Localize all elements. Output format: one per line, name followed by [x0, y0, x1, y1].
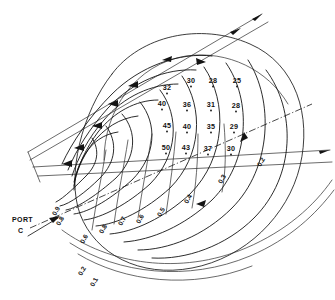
- stream-line-e: [92, 150, 106, 230]
- contour-label: 0.7: [117, 215, 128, 227]
- flow-arrowhead-8: [240, 132, 248, 142]
- contour-label: 0.1: [89, 276, 100, 288]
- grid-value-tick: [185, 153, 187, 155]
- grid-value-tick: [233, 132, 235, 134]
- port-label-line1: PORT: [12, 216, 33, 223]
- grid-value: 29: [230, 122, 239, 131]
- outer-envelope-group: [62, 34, 334, 281]
- grid-value: 50: [162, 143, 171, 152]
- stream-line-c: [138, 134, 152, 218]
- flow-line-3: [72, 84, 178, 176]
- grid-value: 32: [163, 83, 172, 92]
- diagram-canvas: 32 30 28 25 40 36 31 28 45 40 35 29: [0, 0, 335, 300]
- envelope-arc-secondary: [104, 55, 288, 160]
- grid-value-tick: [207, 154, 209, 156]
- grid-value: 43: [182, 143, 191, 152]
- port-label-group: PORT C: [12, 216, 33, 234]
- stream-line-a: [192, 134, 198, 208]
- grid-value: 35: [207, 122, 216, 131]
- grid-value-tick: [190, 86, 192, 88]
- ray-line-upper-1: [28, 14, 262, 152]
- grid-value-tick: [230, 154, 232, 156]
- contour-label: 0.2: [77, 265, 88, 277]
- grid-value-tick: [161, 109, 163, 111]
- grid-value: 28: [232, 101, 241, 110]
- lower-band-line-outer: [62, 180, 332, 264]
- meridian-arc-0-1: [152, 70, 287, 258]
- flow-arrowhead-1: [162, 56, 172, 62]
- grid-value: 45: [163, 121, 172, 130]
- grid-value: 37: [204, 144, 213, 153]
- flow-arrowhead-2: [128, 81, 138, 88]
- grid-value: 25: [233, 76, 242, 85]
- grid-value: 40: [158, 99, 167, 108]
- grid-value: 40: [183, 122, 192, 131]
- flow-line-group: [62, 55, 248, 207]
- grid-value-tick: [166, 131, 168, 133]
- contour-label: 0.6: [135, 213, 146, 225]
- grid-value: 30: [227, 144, 236, 153]
- contour-label: 0.9: [51, 205, 62, 217]
- port-label-line2: C: [18, 227, 23, 234]
- grid-value: 30: [187, 76, 196, 85]
- contour-label: 0.2: [256, 156, 267, 168]
- grid-value-tick: [165, 153, 167, 155]
- grid-value-tick: [210, 110, 212, 112]
- grid-value-tick: [210, 132, 212, 134]
- contour-label: 0.5: [156, 206, 167, 218]
- grid-value-tick: [186, 132, 188, 134]
- grid-value-tick: [235, 111, 237, 113]
- ray-arrowhead-top: [252, 14, 262, 21]
- value-grid-group: 32 30 28 25 40 36 31 28 45 40 35 29: [158, 76, 242, 155]
- contour-label: 0.6: [79, 233, 90, 245]
- contour-label: 0.4: [183, 193, 194, 205]
- grid-value-tick: [186, 110, 188, 112]
- grid-value: 36: [183, 100, 192, 109]
- grid-value-tick: [236, 86, 238, 88]
- grid-value-tick: [212, 86, 214, 88]
- grid-value: 28: [209, 76, 218, 85]
- flow-arrowhead-9: [196, 200, 206, 207]
- meridian-arc-0-7: [74, 102, 152, 214]
- grid-value-tick: [166, 93, 168, 95]
- grid-value: 31: [207, 100, 216, 109]
- flow-line-4: [74, 100, 158, 182]
- ray-arrowhead-top-2: [230, 28, 241, 35]
- stream-line-d: [114, 140, 128, 224]
- flow-field-diagram: 32 30 28 25 40 36 31 28 45 40 35 29: [0, 0, 335, 300]
